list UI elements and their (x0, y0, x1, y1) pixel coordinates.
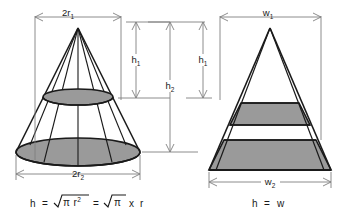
dimension-label-2r2: 2r2 (72, 168, 84, 181)
pyramid-formula-lhs: h (252, 198, 258, 209)
pyramid-formula-equals: = (264, 198, 270, 209)
cone-wire-line-2 (78, 28, 126, 145)
cone-formula: h = π r2 = π x r (30, 195, 144, 209)
cone-formula-equals-1: = (42, 198, 48, 209)
dimension-h2-center: h2 (142, 22, 205, 152)
cone-formula-radicand-1: π r2 (63, 196, 81, 208)
pyramid-figure (209, 28, 331, 170)
cone-formula-lhs: h (30, 198, 36, 209)
cone-formula-times: x (129, 198, 134, 209)
dimension-label-w1: w1 (262, 7, 274, 20)
pyramid-formula: h = w (252, 198, 285, 209)
geometry-diagram: 2r1 2r2 h1 h1 (0, 0, 344, 218)
cone-formula-rhs: r (140, 198, 144, 209)
dimension-h1-right: h1 (186, 22, 212, 98)
dimension-w2: w2 (209, 172, 331, 189)
pyramid-lower-band (209, 140, 331, 170)
cone-formula-equals-2: = (93, 198, 99, 209)
pyramid-upper-band (230, 103, 310, 125)
diagram-canvas: 2r1 2r2 h1 h1 (0, 0, 344, 218)
cone-formula-radicand-2: π (114, 197, 121, 208)
pyramid-formula-rhs: w (276, 198, 285, 209)
cone-wire-line-1 (30, 28, 78, 145)
